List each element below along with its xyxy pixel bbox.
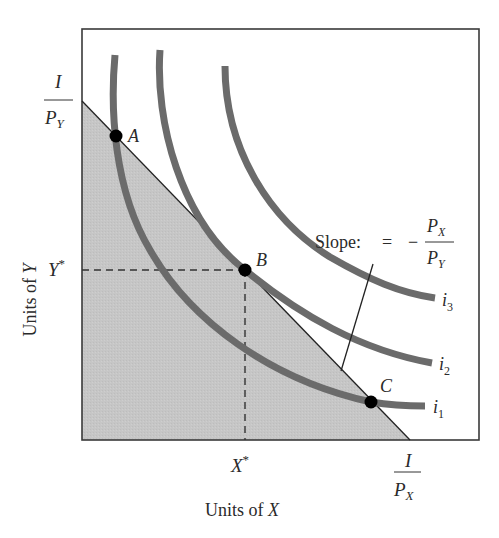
point-a-marker: [110, 130, 123, 143]
slope-label: Slope:: [315, 232, 361, 252]
slope-pointer-line: [341, 264, 373, 371]
point-b-label: B: [256, 250, 267, 270]
point-c-label: C: [380, 376, 393, 396]
x-axis-title: Units of X: [205, 500, 280, 520]
y-intercept-denominator: PY: [44, 107, 66, 131]
curve-label-i3: i3: [442, 290, 453, 314]
point-a-label: A: [127, 126, 140, 146]
point-c-marker: [365, 396, 378, 409]
curve-label-i1: i1: [433, 397, 444, 421]
x-intercept-denominator: PX: [393, 479, 415, 503]
y-intercept-numerator: I: [54, 71, 63, 92]
point-b-marker: [239, 264, 252, 277]
y-star-label: Y*: [48, 256, 65, 280]
slope-denominator: PY: [426, 248, 446, 271]
curve-label-i2: i2: [439, 354, 450, 378]
slope-equals: =: [382, 232, 392, 252]
x-intercept-numerator: I: [404, 450, 413, 471]
slope-numerator: PX: [426, 216, 446, 239]
consumer-choice-diagram: A B C i3 i2 i1 Slope: = − PX PY I PY Y* …: [0, 0, 499, 538]
y-axis-title: Units of Y: [20, 262, 40, 337]
slope-minus: −: [408, 232, 418, 252]
x-star-label: X*: [230, 452, 249, 476]
